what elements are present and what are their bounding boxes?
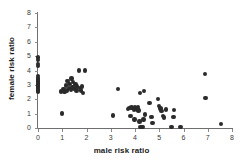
x-tick-label: 6 bbox=[179, 134, 189, 142]
data-point bbox=[203, 72, 207, 76]
data-point bbox=[136, 108, 140, 112]
data-point bbox=[162, 115, 166, 119]
data-point bbox=[77, 68, 81, 72]
data-point bbox=[156, 97, 160, 101]
data-point bbox=[36, 64, 40, 68]
y-tick-label: 3 bbox=[21, 81, 31, 89]
scatter-plot-figure: 012345678 012345678 male risk ratio fema… bbox=[0, 0, 243, 165]
x-tick-mark bbox=[111, 129, 112, 132]
data-point bbox=[111, 113, 115, 117]
data-point bbox=[143, 112, 147, 116]
data-point bbox=[116, 87, 120, 91]
y-tick-label: 5 bbox=[21, 52, 31, 60]
x-tick-mark bbox=[38, 129, 39, 132]
x-tick-label: 1 bbox=[57, 134, 67, 142]
x-tick-mark bbox=[135, 129, 136, 132]
x-tick-label: 5 bbox=[154, 134, 164, 142]
y-axis-title: female risk ratio bbox=[7, 19, 16, 119]
x-tick-label: 3 bbox=[106, 134, 116, 142]
data-point bbox=[142, 89, 146, 93]
data-point bbox=[164, 107, 168, 111]
x-tick-label: 2 bbox=[82, 134, 92, 142]
data-point bbox=[147, 101, 151, 105]
data-point bbox=[150, 121, 154, 125]
x-tick-mark bbox=[208, 129, 209, 132]
y-tick-label: 2 bbox=[21, 95, 31, 103]
x-tick-label: 7 bbox=[203, 134, 213, 142]
data-point bbox=[80, 84, 84, 88]
data-point bbox=[219, 122, 223, 126]
x-tick-mark bbox=[159, 129, 160, 132]
x-tick-mark bbox=[87, 129, 88, 132]
plot-data-area bbox=[38, 13, 232, 128]
x-tick-label: 0 bbox=[33, 134, 43, 142]
x-tick-label: 4 bbox=[130, 134, 140, 142]
x-tick-mark bbox=[62, 129, 63, 132]
data-point bbox=[36, 89, 40, 93]
data-point bbox=[149, 115, 153, 119]
x-tick-label: 8 bbox=[227, 134, 237, 142]
y-tick-label: 8 bbox=[21, 9, 31, 17]
y-tick-label: 0 bbox=[21, 124, 31, 132]
data-point bbox=[132, 117, 136, 121]
x-tick-mark bbox=[184, 129, 185, 132]
y-tick-label: 6 bbox=[21, 38, 31, 46]
data-point bbox=[172, 108, 176, 112]
data-point bbox=[81, 91, 85, 95]
data-point bbox=[60, 111, 64, 115]
x-tick-mark bbox=[232, 129, 233, 132]
x-axis-title: male risk ratio bbox=[0, 146, 243, 155]
y-tick-label: 7 bbox=[21, 23, 31, 31]
data-point bbox=[203, 96, 207, 100]
data-point bbox=[171, 115, 175, 119]
data-point bbox=[83, 68, 87, 72]
y-tick-label: 4 bbox=[21, 67, 31, 75]
data-point bbox=[141, 117, 145, 121]
y-tick-label: 1 bbox=[21, 110, 31, 118]
